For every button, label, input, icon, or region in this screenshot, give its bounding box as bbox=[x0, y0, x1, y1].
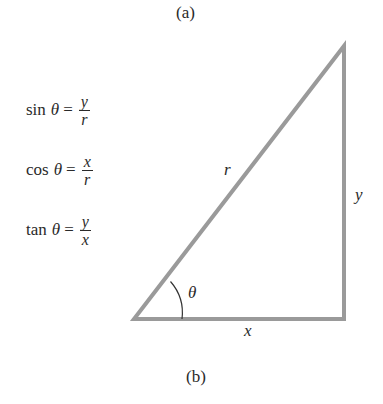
right-triangle-diagram bbox=[0, 0, 383, 404]
angle-theta-label: θ bbox=[188, 283, 196, 303]
adjacent-side-label: x bbox=[244, 321, 252, 341]
hypotenuse-label: r bbox=[224, 160, 231, 180]
right-triangle bbox=[134, 46, 344, 319]
panel-label-b: (b) bbox=[186, 367, 206, 387]
angle-arc bbox=[171, 282, 183, 320]
opposite-side-label: y bbox=[355, 185, 363, 205]
